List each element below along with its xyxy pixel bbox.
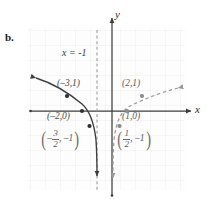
fraction-numerator: 3 [52,129,59,138]
x-axis-label: x [195,103,200,115]
fraction: 1 2 [123,129,130,149]
graph-figure: b. y x x = -1 (–3,1) (–2,0) (2,1) (1,0) … [0,0,207,207]
part-label: b. [5,31,14,43]
fraction-denominator: 2 [124,140,131,149]
point-neg2-0 [80,109,84,113]
fraction-denominator: 2 [52,140,59,149]
point-label-1over2-neg1: ( 1 2 , –1 ) [116,128,152,150]
coordinate-plane-svg [0,0,207,207]
fraction-numerator: 1 [124,129,131,138]
grid [28,28,185,190]
open-paren: ( [117,128,122,150]
point-label-neg3-1: (–3,1) [57,79,80,89]
point-label-2-1: (2,1) [122,79,140,89]
open-paren: ( [41,128,46,150]
close-paren: ) [75,128,80,150]
point-2-1 [140,94,144,98]
y-axis-label: y [115,8,120,20]
asymptote-label: x = -1 [62,48,87,58]
close-paren: ) [146,128,151,150]
point-neg3-1 [65,94,69,98]
point-label-neg3over2-neg1: ( – 3 2 , –1 ) [40,128,81,150]
fraction: 3 2 [52,129,59,149]
point-label-1-0: (1,0) [122,112,140,122]
point-neg1p5-neg1 [87,124,91,128]
point-label-neg2-0: (–2,0) [47,112,70,122]
fraction-rest: , –1 [130,134,144,144]
fraction-rest: , –1 [59,134,73,144]
